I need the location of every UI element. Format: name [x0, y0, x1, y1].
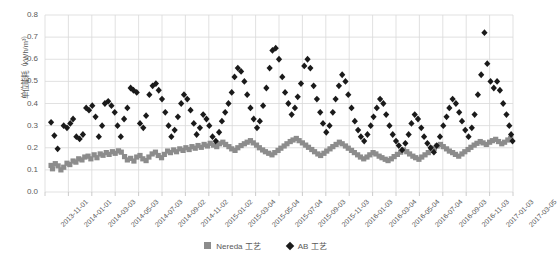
legend-item-nereda[interactable]: Nereda 工艺: [204, 240, 260, 251]
axis-tick-marks: [45, 192, 513, 196]
gridlines: [45, 15, 513, 192]
legend-diamond-icon: [286, 241, 294, 249]
series-ab: [48, 29, 516, 155]
legend-label: Nereda 工艺: [216, 240, 260, 251]
legend-label: AB 工艺: [298, 240, 327, 251]
legend-item-ab[interactable]: AB 工艺: [287, 240, 327, 251]
legend-square-icon: [204, 242, 211, 249]
series-nereda: [48, 136, 513, 173]
chart-legend: Nereda 工艺AB 工艺: [0, 240, 531, 251]
